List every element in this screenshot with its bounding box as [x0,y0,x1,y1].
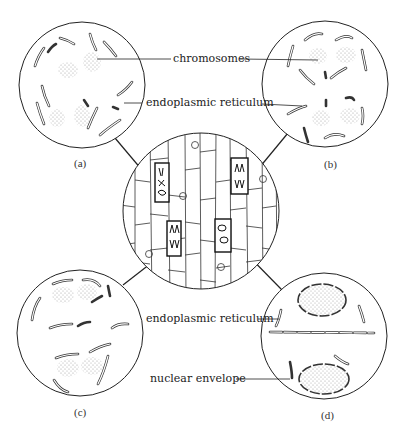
cell-c [17,270,143,396]
nuclear-envelope-label: nuclear envelope [150,373,246,384]
panel-label-d: (d) [321,409,334,421]
cell-d [261,273,387,399]
chromosomes-label: chromosomes [173,53,250,64]
diagram-drawing [0,0,402,436]
panel-label-b: (b) [324,158,337,170]
er-label-top: endoplasmic reticulum [146,97,274,108]
tissue-section [120,130,290,300]
mitosis-diagram: chromosomes endoplasmic reticulum endopl… [0,0,402,436]
panel-label-a: (a) [74,157,86,169]
cell-a [19,22,145,148]
panel-label-c: (c) [74,406,86,418]
cell-b [262,21,388,147]
er-label-bottom: endoplasmic reticulum [146,313,274,324]
